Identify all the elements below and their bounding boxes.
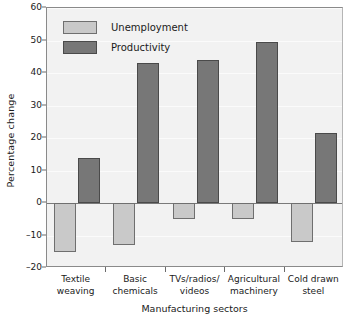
- legend-label-unemployment: Unemployment: [111, 22, 188, 33]
- category-label-3: Agriculturalmachinery: [224, 274, 283, 297]
- x-axis-category-labels: TextileweavingBasicchemicalsTVs/radios/v…: [46, 274, 343, 306]
- bar-unemployment-2: [173, 203, 195, 219]
- legend: UnemploymentProductivity: [63, 21, 188, 61]
- y-tick-label: 50: [31, 35, 42, 45]
- category-label-line: Cold drawn: [284, 274, 343, 286]
- category-label-line: videos: [165, 286, 224, 298]
- category-label-line: machinery: [224, 286, 283, 298]
- bar-unemployment-1: [113, 203, 135, 245]
- bar-unemployment-4: [291, 203, 313, 242]
- category-label-0: Textileweaving: [46, 274, 105, 297]
- gridline: [47, 8, 342, 9]
- y-axis-tick-labels: 6050403020100–10–20: [20, 0, 46, 281]
- y-tick-label: 60: [31, 2, 42, 12]
- y-axis-title: Percentage change: [0, 0, 22, 280]
- category-label-line: Textile: [46, 274, 105, 286]
- y-tick-label: –10: [26, 230, 42, 240]
- x-tick-mark: [105, 267, 106, 272]
- legend-item-productivity: Productivity: [63, 41, 188, 54]
- plot-area: UnemploymentProductivity: [46, 7, 343, 267]
- category-label-4: Cold drawnsteel: [284, 274, 343, 297]
- y-tick-label: 20: [31, 132, 42, 142]
- legend-swatch-productivity: [63, 41, 97, 54]
- category-label-1: Basicchemicals: [105, 274, 164, 297]
- bar-productivity-3: [256, 42, 278, 203]
- bar-productivity-0: [78, 158, 100, 204]
- bar-chart-figure: Percentage change 6050403020100–10–20 Un…: [0, 0, 353, 321]
- category-label-line: steel: [284, 286, 343, 298]
- y-tick-label: –20: [26, 262, 42, 272]
- category-label-line: weaving: [46, 286, 105, 298]
- category-label-line: Agricultural: [224, 274, 283, 286]
- bar-productivity-2: [197, 60, 219, 203]
- x-axis-title: Manufacturing sectors: [46, 303, 343, 314]
- bar-unemployment-3: [232, 203, 254, 219]
- category-label-2: TVs/radios/videos: [165, 274, 224, 297]
- x-tick-mark: [165, 267, 166, 272]
- bar-unemployment-0: [54, 203, 76, 252]
- x-axis-tick-marks: [46, 267, 343, 273]
- gridline: [47, 73, 342, 74]
- x-tick-mark: [224, 267, 225, 272]
- gridline: [47, 138, 342, 139]
- category-label-line: chemicals: [105, 286, 164, 298]
- x-tick-mark: [284, 267, 285, 272]
- gridline: [47, 106, 342, 107]
- legend-label-productivity: Productivity: [111, 42, 170, 53]
- category-label-line: TVs/radios/: [165, 274, 224, 286]
- y-tick-label: 30: [31, 100, 42, 110]
- bar-productivity-1: [137, 63, 159, 203]
- legend-swatch-unemployment: [63, 21, 97, 34]
- y-axis-title-text: Percentage change: [6, 93, 17, 187]
- bar-productivity-4: [315, 133, 337, 203]
- category-label-line: Basic: [105, 274, 164, 286]
- y-tick-label: 10: [31, 165, 42, 175]
- legend-item-unemployment: Unemployment: [63, 21, 188, 34]
- y-tick-label: 40: [31, 67, 42, 77]
